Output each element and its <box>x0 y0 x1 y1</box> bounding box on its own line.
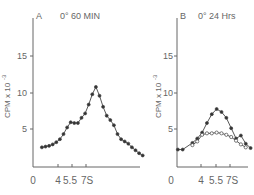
data-point <box>205 132 208 135</box>
data-point <box>210 113 213 116</box>
panel-b-xtick-0: 0 <box>168 175 174 186</box>
data-point <box>69 121 72 124</box>
data-point <box>205 122 208 125</box>
data-point <box>249 147 252 150</box>
panel-b-ytick-15: 15 <box>163 51 173 61</box>
data-point <box>91 93 94 96</box>
data-point <box>176 148 179 151</box>
data-point <box>230 127 233 130</box>
panel-a-letter: A <box>36 11 42 21</box>
panel-a-xtick-7s: 7S <box>81 175 94 186</box>
panel-b-xtick-5-5: 5.5 <box>209 175 223 186</box>
data-point <box>44 145 47 148</box>
data-point <box>98 94 101 97</box>
data-point <box>127 142 130 145</box>
panel-a-ytick-5: 5 <box>22 124 27 134</box>
data-point <box>123 140 126 143</box>
data-point <box>215 131 218 134</box>
panel-a-title: 0° 60 MIN <box>60 11 100 21</box>
data-point <box>62 133 65 136</box>
data-point <box>112 124 115 127</box>
data-point <box>239 143 242 146</box>
svg-text:CPM x 10: CPM x 10 <box>154 82 163 118</box>
data-point <box>105 114 108 117</box>
data-point <box>87 103 90 106</box>
data-point <box>120 138 123 141</box>
panel-a-xtick-4: 4 <box>55 175 61 186</box>
data-point <box>181 148 184 151</box>
panel-b-plot-area <box>176 108 252 152</box>
data-point <box>109 119 112 122</box>
panel-a-ylabel: CPM x 10 -3 <box>1 74 12 118</box>
data-point <box>141 154 144 157</box>
panel-b-xtick-7s: 7S <box>226 175 239 186</box>
panel-b-xtick-4: 4 <box>198 175 204 186</box>
panel-a-plot-area <box>40 85 144 157</box>
panel-b-ylabel: CPM x 10 -3 <box>152 74 163 118</box>
data-point <box>73 122 76 125</box>
data-point <box>244 142 247 145</box>
data-point <box>234 139 237 142</box>
data-point <box>239 134 242 137</box>
data-point <box>94 85 97 88</box>
data-point <box>138 152 141 155</box>
data-point <box>196 140 199 143</box>
panel-b: 15 10 5 0 4 5.5 7S B 0° 24 Hrs CPM x 10 … <box>152 11 252 186</box>
data-point <box>51 143 54 146</box>
data-point <box>230 135 233 138</box>
data-point <box>220 110 223 113</box>
data-point <box>220 132 223 135</box>
data-point <box>66 126 69 129</box>
chart-figure: 15 10 5 0 4 5.5 7S A 0° 60 MIN CPM x 10 … <box>0 0 254 195</box>
data-point <box>130 146 133 149</box>
data-point <box>40 146 43 149</box>
data-point <box>84 112 87 115</box>
panel-b-title: 0° 24 Hrs <box>198 11 236 21</box>
svg-text:-3: -3 <box>1 74 7 80</box>
panel-b-letter: B <box>180 11 186 21</box>
panel-b-ytick-10: 10 <box>163 88 173 98</box>
panel-b-ytick-5: 5 <box>168 124 173 134</box>
panel-a-ytick-10: 10 <box>17 88 27 98</box>
svg-text:-3: -3 <box>152 74 158 80</box>
data-point <box>102 105 105 108</box>
panel-a-xtick-5-5: 5.5 <box>63 175 77 186</box>
data-point <box>58 138 61 141</box>
data-point <box>76 122 79 125</box>
data-point <box>225 116 228 119</box>
data-point <box>55 141 58 144</box>
data-point <box>191 144 194 147</box>
svg-text:CPM x 10: CPM x 10 <box>3 82 12 118</box>
data-point <box>215 108 218 111</box>
data-point <box>116 133 119 136</box>
data-point <box>80 116 83 119</box>
data-point <box>201 133 204 136</box>
panel-a-ytick-15: 15 <box>17 51 27 61</box>
panel-a-xtick-0: 0 <box>30 175 36 186</box>
data-point <box>134 149 137 152</box>
data-point <box>210 132 213 135</box>
data-point <box>225 133 228 136</box>
panel-a: 15 10 5 0 4 5.5 7S A 0° 60 MIN CPM x 10 … <box>1 11 144 186</box>
data-point <box>48 144 51 147</box>
data-point <box>244 146 247 149</box>
